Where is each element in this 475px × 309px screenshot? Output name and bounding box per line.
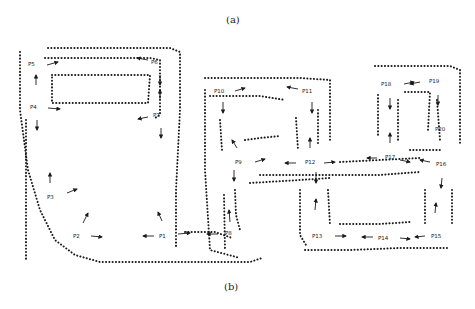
point-label-p5: P5 (28, 61, 35, 67)
point-label-p15: P15 (431, 233, 442, 239)
point-label-p7: P7 (153, 112, 160, 118)
point-label-p11: P11 (302, 88, 312, 94)
point-label-p2: P2 (73, 233, 80, 239)
point-label-p4: P4 (30, 104, 37, 110)
point-label-p12: P12 (305, 159, 315, 165)
point-label-p3: P3 (47, 194, 54, 200)
point-label-p13: P13 (312, 233, 323, 239)
point-label-p9: P9 (235, 159, 242, 165)
point-label-p16: P16 (436, 161, 447, 167)
trajectory-diagram: P1P2P3P4P5P6P7P8P9P10P11P12P13P14P15P16P… (0, 0, 475, 309)
point-label-p17: P17 (385, 154, 396, 160)
point-label-p18: P18 (381, 81, 392, 87)
point-label-p14: P14 (378, 235, 389, 241)
point-label-p20: P20 (435, 126, 446, 132)
point-label-p6: P6 (151, 59, 158, 65)
point-label-p10: P10 (214, 88, 225, 94)
point-label-p19: P19 (429, 78, 440, 84)
point-label-p1: P1 (159, 233, 166, 239)
point-label-p8: P8 (225, 230, 232, 236)
